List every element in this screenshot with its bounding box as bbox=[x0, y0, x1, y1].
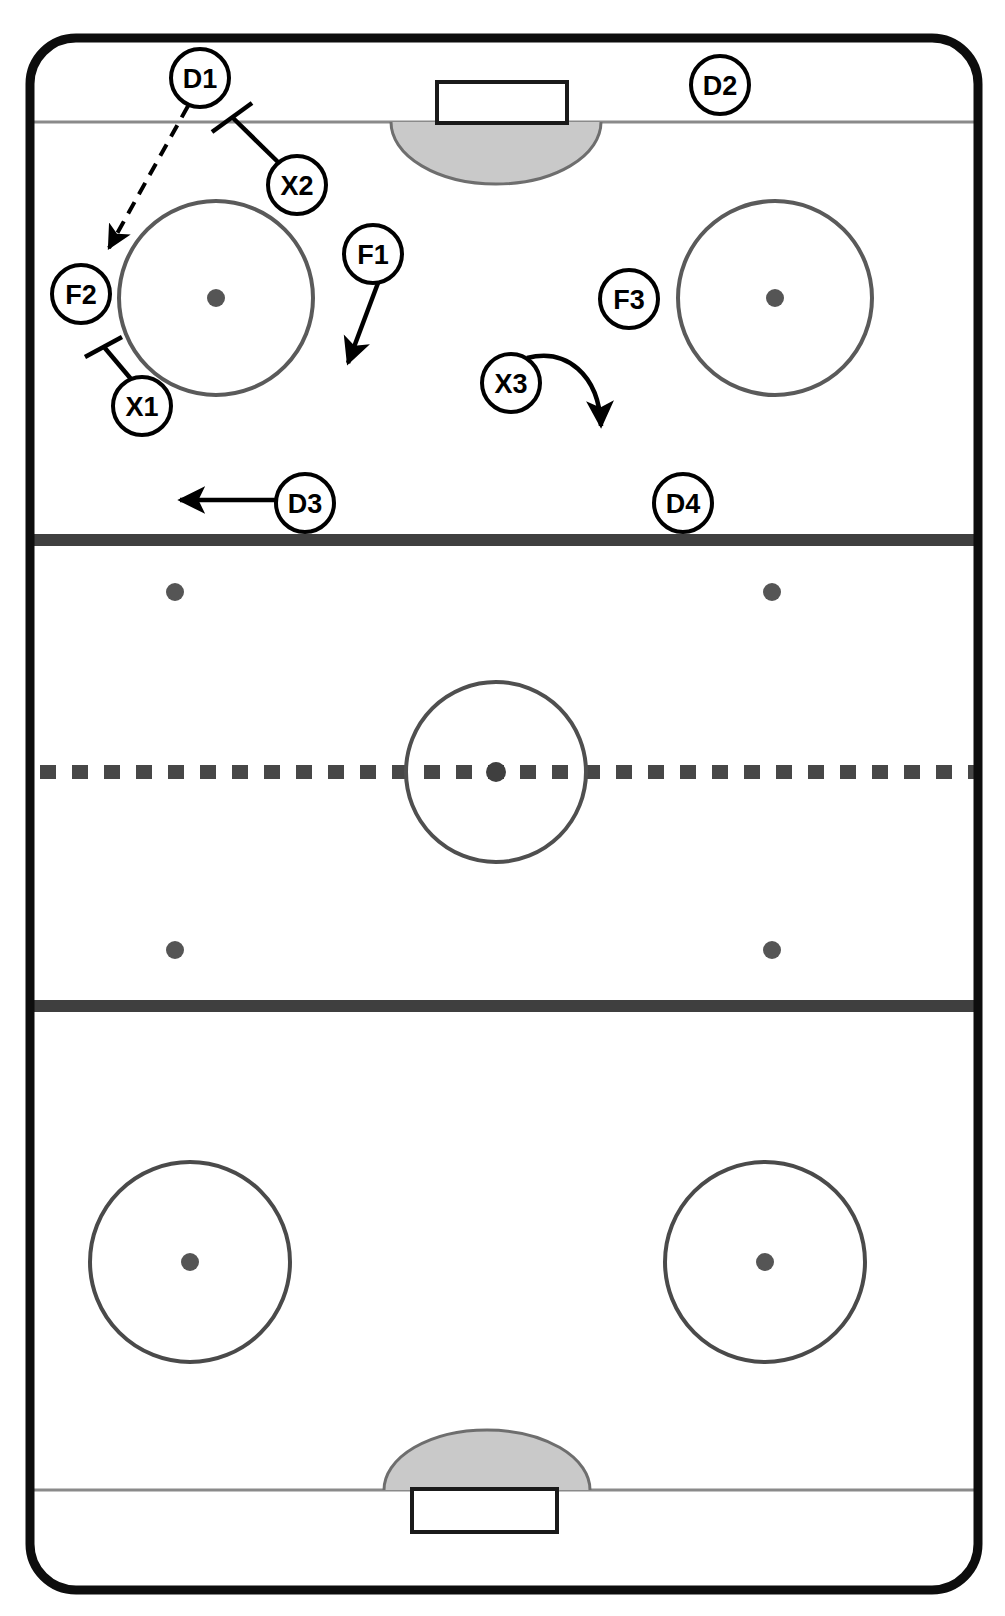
player-marker-X1[interactable]: X1 bbox=[113, 377, 171, 435]
center-dot bbox=[486, 762, 506, 782]
player-marker-D2[interactable]: D2 bbox=[691, 56, 749, 114]
player-marker-F3[interactable]: F3 bbox=[600, 270, 658, 328]
player-marker-D1[interactable]: D1 bbox=[171, 49, 229, 107]
player-circle-F1[interactable] bbox=[344, 225, 402, 283]
top-goal bbox=[437, 82, 567, 123]
player-marker-X2[interactable]: X2 bbox=[268, 156, 326, 214]
player-marker-F2[interactable]: F2 bbox=[52, 265, 110, 323]
player-marker-F1[interactable]: F1 bbox=[344, 225, 402, 283]
player-circle-D2[interactable] bbox=[691, 56, 749, 114]
player-circle-X3[interactable] bbox=[482, 354, 540, 412]
faceoff-dot-top-right bbox=[766, 289, 784, 307]
neutral-dot-bottom-left bbox=[166, 941, 184, 959]
player-circle-F3[interactable] bbox=[600, 270, 658, 328]
neutral-dot-bottom-right bbox=[763, 941, 781, 959]
rink-canvas: D1 D2 D3 D4 F1 F2 bbox=[0, 0, 1005, 1616]
player-circle-F2[interactable] bbox=[52, 265, 110, 323]
faceoff-dot-bottom-right bbox=[756, 1253, 774, 1271]
neutral-dot-top-left bbox=[166, 583, 184, 601]
player-marker-D3[interactable]: D3 bbox=[276, 474, 334, 532]
player-circle-X1[interactable] bbox=[113, 377, 171, 435]
ice-surface bbox=[30, 38, 978, 1590]
player-circle-D1[interactable] bbox=[171, 49, 229, 107]
player-circle-D3[interactable] bbox=[276, 474, 334, 532]
faceoff-dot-top-left bbox=[207, 289, 225, 307]
player-circle-D4[interactable] bbox=[654, 474, 712, 532]
neutral-dot-top-right bbox=[763, 583, 781, 601]
player-marker-D4[interactable]: D4 bbox=[654, 474, 712, 532]
hockey-rink-diagram: D1 D2 D3 D4 F1 F2 bbox=[0, 0, 1005, 1616]
bottom-goal bbox=[412, 1489, 557, 1532]
player-marker-X3[interactable]: X3 bbox=[482, 354, 540, 412]
player-circle-X2[interactable] bbox=[268, 156, 326, 214]
faceoff-dot-bottom-left bbox=[181, 1253, 199, 1271]
